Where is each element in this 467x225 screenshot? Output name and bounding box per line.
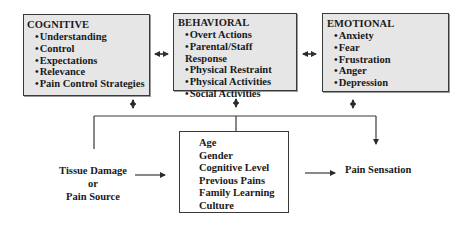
list-item: Frustration	[334, 54, 391, 66]
emotional-box: EMOTIONAL Anxiety Fear Frustration Anger…	[322, 13, 449, 92]
list-item: Expectations	[35, 55, 144, 67]
emotional-title: EMOTIONAL	[327, 18, 394, 30]
list-item: Social Activities	[185, 88, 296, 100]
source-line-3: Pain Source	[53, 190, 133, 203]
list-item: Understanding	[35, 31, 144, 43]
list-item: Physical Restraint	[185, 64, 296, 76]
list-item: Pain Control Strategies	[35, 78, 144, 90]
list-item: Relevance	[35, 66, 144, 78]
outcome-label: Pain Sensation	[345, 163, 411, 176]
list-item: Gender	[199, 150, 275, 163]
cognitive-list: Understanding Control Expectations Relev…	[35, 31, 144, 90]
list-item: Cognitive Level	[199, 162, 275, 175]
list-item: Fear	[334, 42, 391, 54]
list-item: Culture	[199, 200, 275, 213]
list-item: Anger	[334, 65, 391, 77]
behavioral-title: BEHAVIORAL	[178, 17, 249, 29]
list-item: Previous Pains	[199, 175, 275, 188]
cognitive-title: COGNITIVE	[27, 19, 89, 31]
list-item: Depression	[334, 77, 391, 89]
list-item: Parental/Staff Response	[185, 41, 296, 65]
emotional-list: Anxiety Fear Frustration Anger Depressio…	[334, 30, 391, 89]
source-line-1: Tissue Damage	[53, 164, 133, 177]
list-item: Age	[199, 137, 275, 150]
list-item: Physical Activities	[185, 76, 296, 88]
list-item: Control	[35, 43, 144, 55]
factors-box: Age Gender Cognitive Level Previous Pain…	[179, 131, 289, 213]
list-item: Anxiety	[334, 30, 391, 42]
behavioral-list: Overt Actions Parental/Staff Response Ph…	[185, 29, 296, 100]
cognitive-box: COGNITIVE Understanding Control Expectat…	[23, 14, 150, 96]
factors-list: Age Gender Cognitive Level Previous Pain…	[199, 137, 275, 213]
list-item: Family Learning	[199, 187, 275, 200]
source-line-2: or	[53, 177, 133, 190]
list-item: Overt Actions	[185, 29, 296, 41]
source-label: Tissue Damage or Pain Source	[53, 164, 133, 203]
behavioral-box: BEHAVIORAL Overt Actions Parental/Staff …	[173, 13, 297, 91]
